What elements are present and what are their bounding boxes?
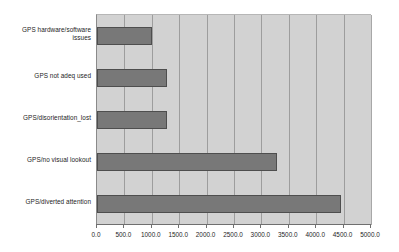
x-axis-tick <box>96 225 97 228</box>
plot-area <box>96 14 371 225</box>
category-label-line: GPS not adeq used <box>34 72 91 79</box>
category-label-line: GPS hardware/software <box>22 26 91 33</box>
category-label-line: GPS/diverted attention <box>26 198 91 205</box>
bar-chart: GPS hardware/software issues GPS not ade… <box>0 0 399 252</box>
category-label-line: GPS/disorientation_lost <box>23 114 91 121</box>
bar <box>97 153 277 171</box>
x-axis-tick-label: 5000.0 <box>350 230 390 239</box>
x-axis-tick-labels: 0.0500.01000.01500.02000.02500.03000.035… <box>0 230 399 244</box>
category-label: GPS/diverted attention <box>0 198 91 206</box>
category-axis: GPS hardware/software issues GPS not ade… <box>0 14 94 224</box>
category-label: GPS hardware/software issues <box>0 26 91 42</box>
x-axis-ticks <box>96 225 371 229</box>
x-axis-tick <box>233 225 234 228</box>
category-label-line: GPS/no visual lookout <box>27 156 91 163</box>
bar-series <box>97 15 371 225</box>
category-label: GPS not adeq used <box>0 72 91 80</box>
x-axis-tick <box>178 225 179 228</box>
category-label: GPS/no visual lookout <box>0 156 91 164</box>
bar <box>97 111 167 129</box>
x-axis-tick <box>370 225 371 228</box>
gridline <box>371 15 372 225</box>
x-axis-tick <box>260 225 261 228</box>
x-axis-tick <box>151 225 152 228</box>
category-label-line: issues <box>73 34 91 41</box>
x-axis-tick <box>315 225 316 228</box>
bar <box>97 69 167 87</box>
x-axis-tick <box>343 225 344 228</box>
x-axis-tick <box>206 225 207 228</box>
category-label: GPS/disorientation_lost <box>0 114 91 122</box>
bar <box>97 27 152 45</box>
x-axis-tick <box>288 225 289 228</box>
x-axis-tick <box>123 225 124 228</box>
bar <box>97 195 341 213</box>
